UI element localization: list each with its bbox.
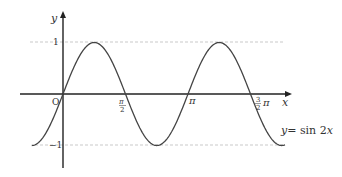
x-tick-three-half-num: 3: [256, 96, 260, 104]
x-axis-label: x: [282, 96, 289, 109]
origin-label: O: [52, 97, 59, 107]
x-tick-pi: π: [188, 95, 196, 106]
x-tick-three-half-pi: π: [262, 97, 270, 108]
y-tick-1: 1: [53, 37, 59, 47]
y-axis-label: y: [50, 12, 58, 25]
curve-eq-body: = sin 2: [287, 124, 326, 137]
y-tick-neg1: −1: [49, 140, 62, 150]
sine-graph: y x O 1 −1 π 2 π 3 2 π y= sin 2x: [0, 0, 342, 177]
x-tick-pi-half-den: 2: [120, 106, 124, 114]
x-tick-three-half-den: 2: [256, 104, 260, 112]
curve-eq-x: x: [327, 124, 334, 137]
y-axis-arrow-icon: [60, 11, 66, 18]
curve-equation: y= sin 2x: [280, 124, 334, 137]
x-tick-pi-half-num: π: [118, 98, 124, 106]
